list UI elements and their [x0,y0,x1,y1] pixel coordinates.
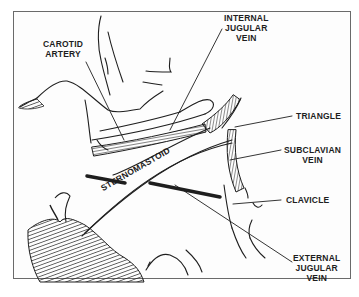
ear-shading [19,99,44,109]
subclavian-band [227,130,244,192]
leader-external-jugular [175,185,292,262]
leader-subclavian [230,150,281,160]
label-internal-jugular-vein: INTERNAL JUGULAR VEIN [224,13,269,43]
label-triangle: TRIANGLE [296,111,341,121]
leader-clavicle [233,200,281,204]
leader-triangle [235,116,292,127]
label-clavicle: CLAVICLE [286,195,329,205]
label-carotid-artery: CAROTID ARTERY [43,39,83,59]
label-subclavian-vein: SUBCLAVIAN VEIN [284,145,341,165]
sternomastoid-lower-2 [150,183,220,197]
label-external-jugular-vein: EXTERNAL JUGULAR VEIN [293,253,340,283]
trapezius-band [202,95,240,133]
beard-shading [28,219,144,282]
leader-carotid [86,62,124,140]
